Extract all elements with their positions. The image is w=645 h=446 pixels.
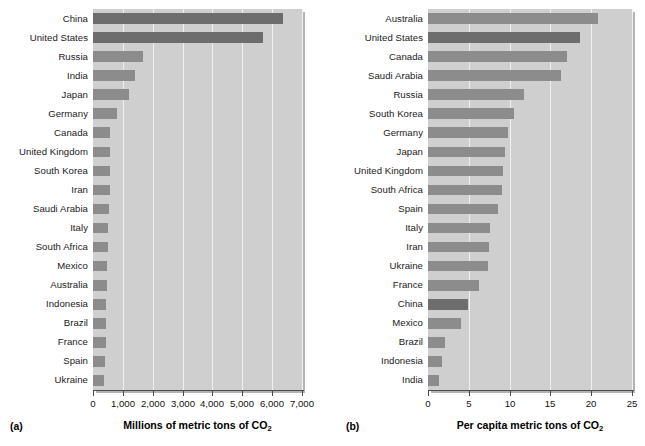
- category-label: India: [402, 375, 423, 385]
- x-axis-tick-label: 25: [627, 398, 638, 409]
- bar: [428, 375, 439, 386]
- bar: [428, 299, 468, 310]
- bar: [428, 242, 489, 253]
- x-axis-title-a: Millions of metric tons of CO2: [93, 419, 302, 431]
- co2-emissions-figure: ChinaUnited StatesRussiaIndiaJapanGerman…: [0, 0, 645, 446]
- category-label: Iran: [406, 242, 423, 252]
- category-label: Spain: [398, 204, 423, 214]
- x-axis-tick-label: 6,000: [260, 398, 284, 409]
- bar: [93, 32, 263, 43]
- category-label: Canada: [54, 128, 88, 138]
- x-axis-tick-label: 5,000: [230, 398, 254, 409]
- bar: [428, 127, 508, 138]
- bar: [428, 51, 567, 62]
- x-axis-tick-label: 3,000: [171, 398, 195, 409]
- gridline: [510, 9, 511, 390]
- category-labels-a: ChinaUnited StatesRussiaIndiaJapanGerman…: [2, 9, 88, 390]
- bar: [428, 32, 580, 43]
- category-label: China: [63, 14, 88, 24]
- bar: [428, 337, 445, 348]
- x-axis-tick-label: 7,000: [290, 398, 314, 409]
- x-axis-tick: [183, 391, 184, 396]
- bar: [428, 204, 498, 215]
- category-label: Mexico: [392, 318, 423, 328]
- x-axis-tick: [632, 391, 633, 396]
- bar: [428, 89, 524, 100]
- gridline: [272, 9, 273, 390]
- category-label: Germany: [383, 128, 423, 138]
- category-label: Spain: [63, 356, 88, 366]
- x-axis-line-b: [428, 390, 634, 391]
- x-axis-tick: [591, 391, 592, 396]
- bar: [93, 185, 110, 196]
- category-label: South Korea: [369, 109, 423, 119]
- x-axis-tick: [242, 391, 243, 396]
- x-axis-tick: [428, 391, 429, 396]
- x-axis-tick: [93, 391, 94, 396]
- bar: [428, 185, 502, 196]
- bar: [93, 108, 117, 119]
- category-label: Indonesia: [46, 299, 88, 309]
- gridline: [153, 9, 154, 390]
- category-label: Russia: [393, 90, 423, 100]
- bar: [93, 261, 107, 272]
- x-axis-tick: [153, 391, 154, 396]
- gridline: [550, 9, 551, 390]
- category-label: Indonesia: [381, 356, 423, 366]
- x-axis-tick-label: 15: [545, 398, 556, 409]
- category-label: Japan: [397, 147, 423, 157]
- category-label: China: [398, 299, 423, 309]
- gridline: [123, 9, 124, 390]
- x-axis-tick-label: 0: [425, 398, 430, 409]
- bar: [428, 147, 505, 158]
- bar: [93, 242, 108, 253]
- x-axis-title-text-a: Millions of metric tons of CO: [123, 419, 267, 431]
- x-axis-tick-label: 10: [505, 398, 516, 409]
- bar: [93, 318, 106, 329]
- category-label: Brazil: [399, 337, 423, 347]
- x-axis-tick: [550, 391, 551, 396]
- category-label: France: [58, 337, 88, 347]
- category-label: South Africa: [36, 242, 88, 252]
- category-label: Russia: [58, 52, 88, 62]
- chart-panel-b: AustraliaUnited StatesCanadaSaudi Arabia…: [330, 0, 645, 446]
- x-axis-tick: [469, 391, 470, 396]
- category-label: United States: [30, 33, 88, 43]
- bar: [93, 337, 106, 348]
- category-label: Australia: [50, 280, 88, 290]
- category-label: France: [393, 280, 423, 290]
- bar: [93, 147, 110, 158]
- gridline: [242, 9, 243, 390]
- bar: [428, 108, 514, 119]
- gridline: [632, 9, 633, 390]
- bar: [428, 280, 479, 291]
- category-label: Saudi Arabia: [368, 71, 423, 81]
- category-label: Mexico: [57, 261, 88, 271]
- x-axis-title-subscript-b: 2: [599, 424, 603, 433]
- category-label: United States: [365, 33, 423, 43]
- bar: [428, 166, 503, 177]
- x-axis-tick-label: 5: [466, 398, 471, 409]
- bar: [93, 280, 107, 291]
- x-axis-tick-label: 2,000: [141, 398, 165, 409]
- bar: [93, 223, 108, 234]
- category-labels-b: AustraliaUnited StatesCanadaSaudi Arabia…: [333, 9, 423, 390]
- bar: [93, 127, 110, 138]
- plot-area-b: [428, 9, 633, 390]
- category-label: United Kingdom: [354, 166, 423, 176]
- bar: [93, 70, 135, 81]
- x-axis-title-b: Per capita metric tons of CO2: [425, 419, 635, 431]
- x-axis-tick: [510, 391, 511, 396]
- category-label: Brazil: [64, 318, 88, 328]
- gridline: [469, 9, 470, 390]
- x-axis-title-subscript-a: 2: [267, 424, 271, 433]
- bar: [428, 70, 561, 81]
- panel-tag-b: (b): [346, 421, 359, 432]
- bar: [93, 204, 109, 215]
- bar: [428, 318, 461, 329]
- category-label: Italy: [70, 223, 88, 233]
- bar: [93, 89, 129, 100]
- gridline: [183, 9, 184, 390]
- panel-tag-a: (a): [10, 421, 23, 432]
- bar: [93, 356, 105, 367]
